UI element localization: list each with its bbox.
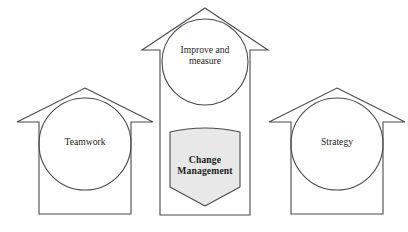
- diagram-shapes: [0, 0, 408, 232]
- shape-arrow-teamwork[interactable]: [17, 88, 153, 214]
- diagram-canvas: Teamwork Improve and measure Change Mana…: [0, 0, 408, 232]
- shape-arrow-strategy[interactable]: [269, 88, 405, 214]
